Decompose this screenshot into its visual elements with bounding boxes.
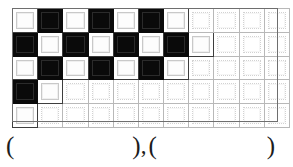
grid-cell-inner-square xyxy=(142,83,160,100)
grid-cell-faint[interactable] xyxy=(189,56,214,80)
grid-cell-inner-square xyxy=(167,36,185,53)
grid-cell-inner-square xyxy=(192,60,210,77)
grid-cell-white[interactable] xyxy=(113,9,138,33)
grid-cell-white[interactable] xyxy=(63,56,88,80)
grid-cell-white[interactable] xyxy=(164,56,189,80)
grid-cell-faint[interactable] xyxy=(239,32,264,56)
grid-cell-inner-square xyxy=(117,60,135,77)
grid-cell-black[interactable] xyxy=(38,56,63,80)
grid-cell-black[interactable] xyxy=(13,32,38,56)
grid-cell-inner-square xyxy=(243,36,261,53)
grid-cell-faint[interactable] xyxy=(88,104,113,128)
grid-cell-faint[interactable] xyxy=(164,80,189,104)
grid-cell-inner-square xyxy=(117,107,135,124)
grid-cell-white[interactable] xyxy=(38,80,63,104)
grid-cell-faint[interactable] xyxy=(113,104,138,128)
grid-cell-inner-square xyxy=(41,36,59,53)
grid-cell-inner-square xyxy=(66,60,84,77)
grid-cell-inner-square xyxy=(16,83,34,100)
grid-cell-faint[interactable] xyxy=(264,80,289,104)
grid-cell-inner-square xyxy=(217,12,235,29)
grid-cell-faint[interactable] xyxy=(63,104,88,128)
grid-cell-inner-square xyxy=(41,107,59,124)
grid-cell-faint[interactable] xyxy=(264,9,289,33)
grid-cell-faint[interactable] xyxy=(239,56,264,80)
grid-cell-faint[interactable] xyxy=(138,80,163,104)
grid-cell-inner-square xyxy=(117,12,135,29)
answer-group-second: ( ) xyxy=(148,133,275,158)
grid-cell-black[interactable] xyxy=(138,9,163,33)
grid-cell-white[interactable] xyxy=(13,104,38,128)
grid-row xyxy=(13,9,290,33)
grid-cell-faint[interactable] xyxy=(239,9,264,33)
grid-cell-white[interactable] xyxy=(38,32,63,56)
grid-cell-inner-square xyxy=(192,107,210,124)
grid-cell-faint[interactable] xyxy=(214,56,239,80)
grid-cell-inner-square xyxy=(268,60,286,77)
grid-cell-faint[interactable] xyxy=(113,80,138,104)
grid-cell-inner-square xyxy=(117,36,135,53)
grid-cell-black[interactable] xyxy=(88,56,113,80)
grid-cell-black[interactable] xyxy=(113,32,138,56)
grid-cell-inner-square xyxy=(243,60,261,77)
grid-cell-inner-square xyxy=(16,60,34,77)
grid-cell-faint[interactable] xyxy=(214,9,239,33)
grid-cell-faint[interactable] xyxy=(214,32,239,56)
grid-cell-faint[interactable] xyxy=(63,80,88,104)
grid-cell-faint[interactable] xyxy=(239,80,264,104)
grid-cell-black[interactable] xyxy=(88,9,113,33)
open-paren-first: ( xyxy=(6,133,14,158)
grid-cell-inner-square xyxy=(41,83,59,100)
grid-cell-white[interactable] xyxy=(113,56,138,80)
grid-cell-inner-square xyxy=(268,107,286,124)
grid-cell-inner-square xyxy=(192,36,210,53)
grid-cell-inner-square xyxy=(92,107,110,124)
grid-cell-inner-square xyxy=(142,36,160,53)
grid-cell-faint[interactable] xyxy=(189,104,214,128)
grid-cell-inner-square xyxy=(66,83,84,100)
grid-cell-faint[interactable] xyxy=(264,104,289,128)
grid-cell-faint[interactable] xyxy=(88,80,113,104)
grid-cell-inner-square xyxy=(217,36,235,53)
grid-row xyxy=(13,104,290,128)
grid-cell-inner-square xyxy=(92,83,110,100)
grid-cell-white[interactable] xyxy=(13,56,38,80)
grid-cell-white[interactable] xyxy=(138,32,163,56)
grid-cell-white[interactable] xyxy=(88,32,113,56)
grid-cell-white[interactable] xyxy=(164,9,189,33)
answer-line: ( ) , ( ) xyxy=(0,126,293,164)
grid-cell-black[interactable] xyxy=(63,32,88,56)
grid-cell-inner-square xyxy=(217,107,235,124)
grid-cell-black[interactable] xyxy=(138,56,163,80)
grid-cell-inner-square xyxy=(217,83,235,100)
grid-cell-faint[interactable] xyxy=(214,80,239,104)
grid-cell-black[interactable] xyxy=(38,9,63,33)
grid-cell-inner-square xyxy=(192,83,210,100)
grid-cell-inner-square xyxy=(243,12,261,29)
grid-cell-inner-square xyxy=(167,83,185,100)
grid-cell-faint[interactable] xyxy=(239,104,264,128)
grid-cell-black[interactable] xyxy=(164,32,189,56)
grid-cell-faint[interactable] xyxy=(214,104,239,128)
grid-row xyxy=(13,56,290,80)
checkerboard-grid-body xyxy=(13,9,290,128)
grid-cell-inner-square xyxy=(167,107,185,124)
grid-cell-faint[interactable] xyxy=(264,32,289,56)
grid-cell-white[interactable] xyxy=(189,32,214,56)
grid-cell-inner-square xyxy=(167,60,185,77)
answer-group-first: ( ) xyxy=(6,133,141,158)
grid-cell-faint[interactable] xyxy=(164,104,189,128)
grid-cell-inner-square xyxy=(142,12,160,29)
grid-cell-faint[interactable] xyxy=(189,9,214,33)
open-paren-second: ( xyxy=(148,133,156,158)
grid-cell-black[interactable] xyxy=(13,80,38,104)
grid-cell-inner-square xyxy=(142,60,160,77)
grid-cell-faint[interactable] xyxy=(264,56,289,80)
close-paren-second: ) xyxy=(267,133,275,158)
grid-cell-faint[interactable] xyxy=(189,80,214,104)
grid-cell-white[interactable] xyxy=(63,9,88,33)
grid-cell-faint[interactable] xyxy=(138,104,163,128)
grid-cell-faint[interactable] xyxy=(38,104,63,128)
grid-row xyxy=(13,32,290,56)
grid-cell-white[interactable] xyxy=(13,9,38,33)
